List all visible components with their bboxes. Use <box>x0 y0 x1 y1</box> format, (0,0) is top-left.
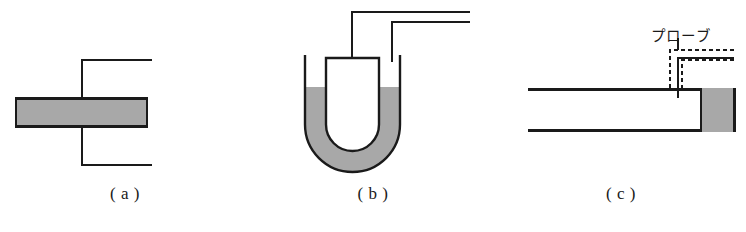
figure-root: ( a ) ( b ) プローブ ( c ) <box>0 0 746 232</box>
probe-label: プローブ <box>651 24 711 45</box>
diagram-a-graphic <box>0 0 250 180</box>
end-block-fill <box>700 88 736 132</box>
probe-dashed-inner <box>682 60 734 88</box>
probe-dashed-outer <box>670 50 734 90</box>
panel-a: ( a ) <box>0 0 250 232</box>
caption-c: ( c ) <box>496 184 746 204</box>
slab-fill <box>15 97 148 128</box>
panel-b: ( b ) <box>250 0 496 232</box>
caption-a: ( a ) <box>0 184 250 204</box>
inner-tube <box>326 58 379 151</box>
panel-c: プローブ ( c ) <box>496 0 746 232</box>
caption-b: ( b ) <box>250 184 496 204</box>
diagram-b-graphic <box>250 0 496 180</box>
